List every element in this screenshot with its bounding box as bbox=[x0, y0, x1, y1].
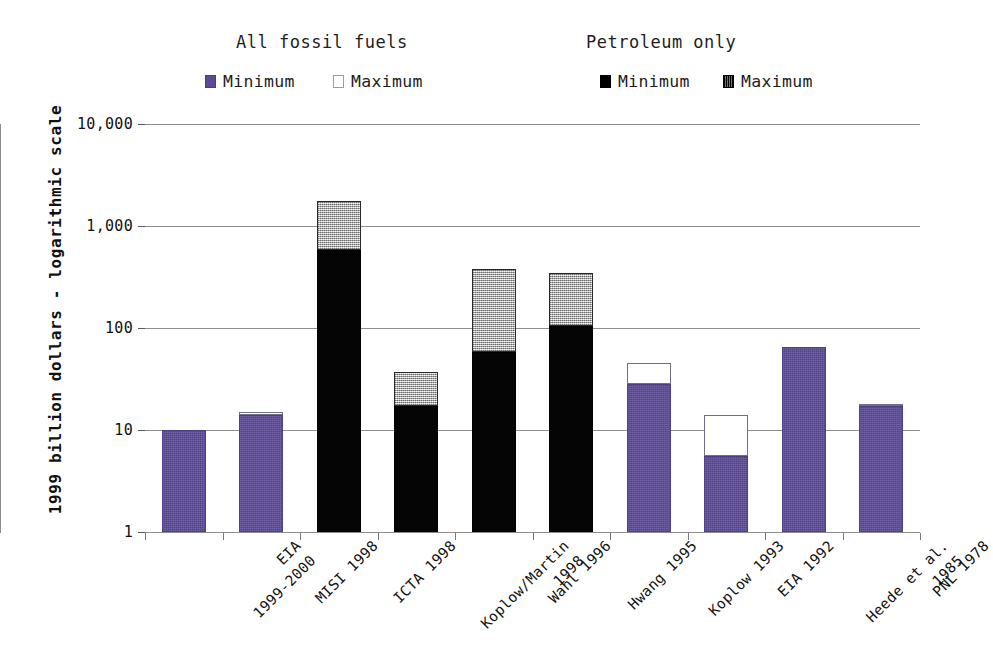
y-axis-tick-label: 1,000 bbox=[86, 217, 133, 235]
legend-label: Maximum bbox=[741, 72, 813, 91]
y-axis-tick-label: 10 bbox=[114, 421, 133, 439]
y-axis-tick-mark bbox=[138, 430, 145, 431]
bar-column bbox=[394, 124, 438, 533]
legend-item-petroleum-minimum: Minimum bbox=[600, 72, 690, 91]
bar-segment-petroleum-maximum bbox=[317, 201, 361, 250]
bar-segment-fossil-minimum bbox=[782, 347, 826, 532]
bar-segment-petroleum-maximum bbox=[394, 372, 438, 406]
legend-group-title-fossil: All fossil fuels bbox=[236, 32, 408, 52]
legend-item-fossil-maximum: Maximum bbox=[333, 72, 423, 91]
bar-segment-fossil-minimum bbox=[239, 415, 283, 532]
bar-segment-petroleum-minimum bbox=[472, 352, 516, 532]
bar-segment-fossil-minimum bbox=[859, 406, 903, 532]
x-axis-category-label: EIA 1999-2000 bbox=[234, 536, 321, 623]
hatched-square-icon bbox=[723, 75, 734, 88]
bar-column bbox=[704, 124, 748, 533]
purple-square-icon bbox=[205, 75, 216, 88]
bar-column bbox=[472, 124, 516, 533]
black-square-icon bbox=[600, 75, 611, 88]
y-axis-tick-label: 1 bbox=[124, 523, 133, 541]
bar-segment-petroleum-maximum bbox=[549, 273, 593, 326]
y-axis-tick-mark bbox=[138, 124, 145, 125]
x-axis-category-label: MISI 1998 bbox=[311, 536, 383, 608]
bar-segment-fossil-minimum bbox=[627, 384, 671, 532]
y-axis-tick-mark bbox=[138, 226, 145, 227]
bar-segment-petroleum-minimum bbox=[549, 326, 593, 532]
bar-column bbox=[782, 124, 826, 533]
x-axis-tick-mark bbox=[920, 533, 921, 540]
bar-segment-fossil-minimum bbox=[162, 430, 206, 532]
legend-label: Minimum bbox=[618, 72, 690, 91]
legend-item-petroleum-maximum: Maximum bbox=[723, 72, 813, 91]
bar-column bbox=[162, 124, 206, 533]
y-axis-tick-label: 10,000 bbox=[77, 115, 133, 133]
bar-column bbox=[239, 124, 283, 533]
chart-legend: All fossil fuels Petroleum only Minimum … bbox=[0, 0, 952, 100]
bar-column bbox=[859, 124, 903, 533]
y-axis-tick-mark bbox=[138, 328, 145, 329]
bar-series-layer bbox=[145, 124, 920, 533]
x-axis-category-label: ICTA 1998 bbox=[389, 536, 461, 608]
legend-item-fossil-minimum: Minimum bbox=[205, 72, 295, 91]
x-axis-category-label: Hwang 1995 bbox=[624, 536, 703, 615]
bar-segment-petroleum-minimum bbox=[317, 250, 361, 532]
x-axis-labels: EIA 1999-2000MISI 1998ICTA 1998Koplow/Ma… bbox=[145, 536, 920, 665]
bar-column bbox=[549, 124, 593, 533]
bar-column bbox=[317, 124, 361, 533]
y-axis-tick-mark bbox=[138, 532, 145, 533]
bar-column bbox=[627, 124, 671, 533]
white-outline-square-icon bbox=[333, 75, 344, 88]
y-axis-line bbox=[0, 124, 1, 533]
legend-label: Maximum bbox=[351, 72, 423, 91]
bar-segment-fossil-maximum bbox=[704, 415, 748, 456]
bar-segment-fossil-minimum bbox=[704, 456, 748, 532]
y-axis-tick-label: 100 bbox=[105, 319, 133, 337]
bar-segment-fossil-maximum bbox=[627, 363, 671, 384]
legend-label: Minimum bbox=[223, 72, 295, 91]
bar-segment-petroleum-minimum bbox=[394, 406, 438, 532]
bar-segment-petroleum-maximum bbox=[472, 269, 516, 352]
x-axis-category-label: Koplow 1993 bbox=[704, 536, 789, 621]
legend-group-title-petroleum: Petroleum only bbox=[586, 32, 736, 52]
y-axis-title: 1999 billion dollars - logarithmic scale bbox=[46, 95, 65, 525]
